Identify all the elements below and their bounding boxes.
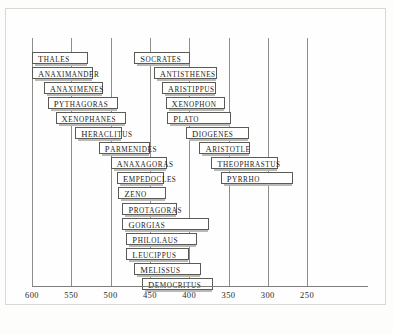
timeline-bar-label: Theophrastus xyxy=(217,159,280,170)
timeline-bar-label: Aristippus xyxy=(168,84,215,95)
timeline-bar-label: Leucippus xyxy=(132,250,176,261)
timeline-bar: Antisthenes xyxy=(154,67,217,79)
timeline-bar-label: Plato xyxy=(173,114,199,125)
timeline-bar-label: Heraclitus xyxy=(81,129,132,140)
x-axis-tick-label: 400 xyxy=(169,290,209,300)
x-axis-line xyxy=(32,286,368,287)
timeline-bar-label: Gorgias xyxy=(128,220,165,231)
timeline-bar: Leucippus xyxy=(126,248,189,260)
timeline-bar: Plato xyxy=(167,112,231,124)
x-axis-tick-label: 350 xyxy=(209,290,249,300)
timeline-bar: Anaximenes xyxy=(44,82,103,94)
timeline-bar: Protagoras xyxy=(122,203,177,215)
x-axis-tick-label: 600 xyxy=(12,290,52,300)
timeline-bar-label: Anaximander xyxy=(38,69,99,80)
timeline-bar-label: Anaxagoras xyxy=(117,159,174,170)
timeline-bar: Aristippus xyxy=(162,82,216,94)
timeline-bar: Empedocles xyxy=(117,172,164,184)
timeline-bar: Xenophanes xyxy=(56,112,127,124)
timeline-bar-label: Protagoras xyxy=(128,205,182,216)
timeline-bar-label: Pythagoras xyxy=(54,99,109,110)
timeline-bar-label: Diogenes xyxy=(192,129,233,140)
timeline-bar: Theophrastus xyxy=(211,157,278,169)
timeline-bar: Xenophon xyxy=(166,97,225,109)
timeline-bar-label: Socrates xyxy=(140,54,181,65)
timeline-bar: Thales xyxy=(32,52,88,64)
timeline-bar-label: Antisthenes xyxy=(160,69,216,80)
figure-timeline-greek-philosophers: ThalesAnaximanderAnaximenesPythagorasXen… xyxy=(0,0,393,334)
timeline-bar: Democritus xyxy=(142,278,213,290)
timeline-bar-label: Melissus xyxy=(140,265,180,276)
timeline-bar: Zeno xyxy=(118,187,165,199)
timeline-bar-label: Anaximenes xyxy=(50,84,104,95)
x-axis-tick-label: 250 xyxy=(287,290,327,300)
plot-area: ThalesAnaximanderAnaximenesPythagorasXen… xyxy=(32,38,362,286)
timeline-bar-label: Empedocles xyxy=(123,174,177,185)
timeline-bar: Diogenes xyxy=(186,127,249,139)
x-axis-tick-label: 450 xyxy=(130,290,170,300)
timeline-bar: Socrates xyxy=(134,52,190,64)
x-axis-tick-label: 300 xyxy=(248,290,288,300)
gridline-250 xyxy=(307,38,308,286)
timeline-bar: Anaximander xyxy=(32,67,93,79)
timeline-bar: Aristotle xyxy=(199,142,250,154)
timeline-bar: Pyrrho xyxy=(221,172,293,184)
x-axis-tick-label: 550 xyxy=(51,290,91,300)
timeline-bar: Melissus xyxy=(134,263,201,275)
timeline-bar-label: Xenophanes xyxy=(62,114,116,125)
timeline-bar: Philolaus xyxy=(126,233,197,245)
timeline-bar: Gorgias xyxy=(122,218,208,230)
timeline-bar-label: Thales xyxy=(38,54,70,65)
timeline-bar: Pythagoras xyxy=(48,97,119,109)
timeline-bar-label: Xenophon xyxy=(172,99,217,110)
x-axis-tick-label: 500 xyxy=(91,290,131,300)
timeline-bar-label: Philolaus xyxy=(132,235,178,246)
timeline-bar-label: Zeno xyxy=(124,189,146,200)
timeline-bar-label: Parmenides xyxy=(105,144,157,155)
timeline-bar-label: Aristotle xyxy=(205,144,250,155)
timeline-bar-label: Pyrrho xyxy=(227,174,260,185)
figure-caption xyxy=(0,322,393,334)
timeline-bar: Heraclitus xyxy=(75,127,122,139)
timeline-bar: Parmenides xyxy=(99,142,150,154)
timeline-bar: Anaxagoras xyxy=(111,157,168,169)
